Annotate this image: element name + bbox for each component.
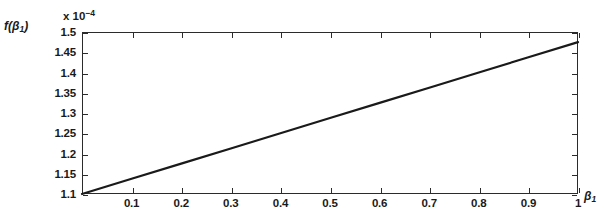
y-axis-tick-label: 1.1 bbox=[61, 188, 76, 200]
x-axis-tick-label: 0.7 bbox=[421, 197, 436, 209]
x-axis-tick bbox=[579, 188, 580, 193]
figure-canvas: f(β1) x 10−4 β1 0.10.20.30.40.50.60.70.8… bbox=[0, 0, 604, 222]
x-axis-tick-label: 0.1 bbox=[124, 197, 139, 209]
y-axis-label-text: f(β1) bbox=[4, 19, 28, 33]
y-axis-exponent-label: x 10−4 bbox=[63, 8, 95, 22]
y-axis-tick-label: 1.4 bbox=[61, 67, 76, 79]
y-axis-tick-label: 1.15 bbox=[54, 168, 76, 180]
x-axis-label: β1 bbox=[584, 189, 596, 204]
data-series-layer bbox=[82, 32, 578, 194]
y-axis-tick bbox=[83, 195, 88, 196]
y-axis-tick-label: 1.35 bbox=[54, 87, 76, 99]
x-axis-label-text: β1 bbox=[584, 189, 596, 203]
x-axis-tick-label: 1 bbox=[575, 197, 581, 209]
y-axis-exponent-base: x 10 bbox=[63, 10, 85, 22]
x-axis-tick-label: 0.8 bbox=[471, 197, 486, 209]
data-line-f-beta1 bbox=[82, 42, 578, 194]
x-axis-tick-top bbox=[579, 33, 580, 38]
x-axis-tick-label: 0.5 bbox=[322, 197, 337, 209]
y-axis-label: f(β1) bbox=[4, 19, 28, 34]
y-axis-tick-label: 1.25 bbox=[54, 127, 76, 139]
y-axis-tick-label: 1.5 bbox=[61, 26, 76, 38]
x-axis-tick-label: 0.2 bbox=[173, 197, 188, 209]
x-axis-tick-label: 0.6 bbox=[372, 197, 387, 209]
y-axis-tick-label: 1.2 bbox=[61, 148, 76, 160]
y-axis-tick-label: 1.3 bbox=[61, 107, 76, 119]
x-axis-tick-label: 0.9 bbox=[521, 197, 536, 209]
y-axis-exponent-power: −4 bbox=[85, 8, 95, 18]
y-axis-tick-right bbox=[572, 195, 577, 196]
x-axis-tick-label: 0.4 bbox=[273, 197, 288, 209]
x-axis-tick-label: 0.3 bbox=[223, 197, 238, 209]
y-axis-tick-label: 1.45 bbox=[54, 46, 76, 58]
